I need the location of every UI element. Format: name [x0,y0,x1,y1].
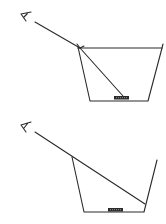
eye-icon [21,12,31,21]
coin [114,96,129,100]
line-of-sight-ray [35,132,145,204]
coin [108,208,123,212]
refracted-ray [80,48,123,96]
panel-with-water [21,12,163,101]
refraction-diagram [0,0,166,224]
eye-icon [21,122,31,132]
incident-ray [35,22,80,48]
panel-without-water [21,122,157,212]
